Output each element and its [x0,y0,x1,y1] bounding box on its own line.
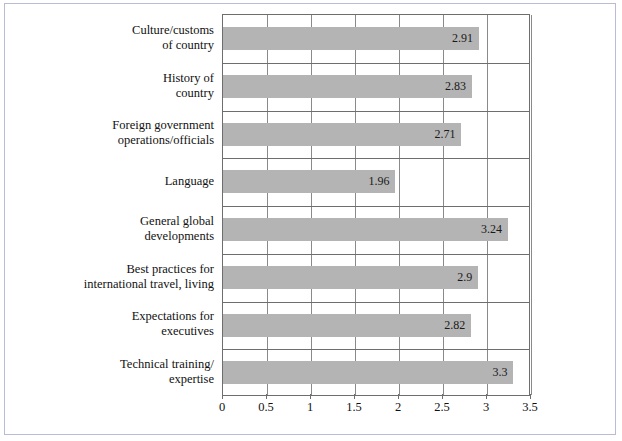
category-label: History of country [2,71,214,101]
category-label: Foreign government operations/officials [2,118,214,148]
bar-value-label: 2.91 [223,28,473,49]
x-tick-label: 0.5 [258,400,274,415]
bar-row: 3.24 [223,206,529,254]
x-tick-mark [530,394,531,399]
category-label: Best practices for international travel,… [2,262,214,292]
x-tick-mark [354,394,355,399]
x-tick-mark [222,394,223,399]
bar-value-label: 2.83 [223,76,466,97]
category-label: Technical training/ expertise [2,357,214,387]
bar-value-label: 3.3 [223,362,507,383]
bar-row: 2.71 [223,111,529,159]
bar-chart: Culture/customs of countryHistory of cou… [0,0,622,441]
bar-value-label: 3.24 [223,219,502,240]
bar-row: 1.96 [223,158,529,206]
bar-value-label: 2.71 [223,124,455,145]
x-tick-mark [266,394,267,399]
bar-row: 2.91 [223,15,529,63]
category-label: General global developments [2,214,214,244]
category-label: Culture/customs of country [2,23,214,53]
category-label: Language [2,174,214,189]
bar-row: 3.3 [223,349,529,397]
gridline-vertical [531,15,532,395]
category-label: Expectations for executives [2,309,214,339]
x-tick-mark [398,394,399,399]
bar-row: 2.82 [223,302,529,350]
x-tick-mark [442,394,443,399]
x-tick-label: 2 [395,400,401,415]
value-axis-labels: 00.511.522.533.5 [222,400,530,422]
bar-row: 2.83 [223,63,529,111]
x-tick-label: 1 [307,400,313,415]
plot-area: 2.912.832.711.963.242.92.823.3 [222,14,530,396]
x-tick-label: 2.5 [434,400,450,415]
bar-value-label: 2.82 [223,315,465,336]
x-tick-label: 0 [219,400,225,415]
bar-row: 2.9 [223,254,529,302]
x-tick-label: 1.5 [346,400,362,415]
x-tick-mark [310,394,311,399]
bar-value-label: 2.9 [223,267,472,288]
x-tick-mark [486,394,487,399]
x-tick-label: 3.5 [522,400,538,415]
x-tick-label: 3 [483,400,489,415]
bar-value-label: 1.96 [223,171,389,192]
